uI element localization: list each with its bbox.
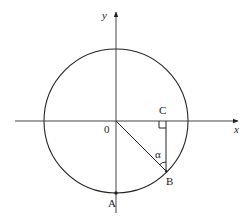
point-B-label: B (166, 175, 173, 187)
point-C-label: C (159, 104, 166, 116)
y-axis-label: y (101, 9, 107, 21)
x-axis-label: x (233, 123, 239, 135)
point-A-dot (114, 191, 118, 195)
point-B-dot (165, 170, 167, 172)
point-A-label: A (108, 197, 116, 209)
origin-label: 0 (104, 123, 110, 135)
unit-circle-diagram: y x 0 C B A α (0, 0, 251, 223)
angle-alpha-label: α (155, 148, 161, 160)
angle-arc-alpha (160, 162, 166, 165)
right-angle-marker (159, 121, 166, 128)
